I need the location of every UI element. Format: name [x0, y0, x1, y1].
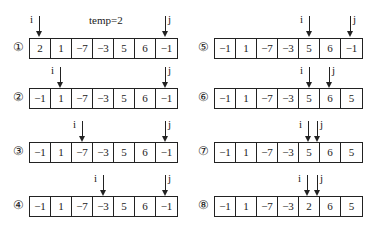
step-1: temp=2 ① i j 2 1 −7 −3 5 6 −1: [2, 8, 187, 62]
array-cell: 2: [299, 197, 320, 216]
array-cell: 1: [51, 39, 72, 58]
array-cell: 1: [236, 39, 257, 58]
arrow-down-icon: [162, 31, 168, 37]
array-cell: −1: [156, 143, 177, 162]
pointer-i: i: [78, 121, 88, 143]
array-cell: −7: [72, 197, 93, 216]
array-cell: 1: [236, 197, 257, 216]
array-cell: 5: [299, 143, 320, 162]
array-cell: 5: [114, 143, 135, 162]
array-cell: 5: [341, 89, 362, 108]
array-cell: −1: [215, 89, 236, 108]
array: −1 1 −7 −3 2 6 5: [214, 196, 363, 217]
array-cell: 6: [135, 89, 156, 108]
array-cell: 1: [236, 89, 257, 108]
array-cell: −1: [30, 197, 51, 216]
array-cell: 2: [30, 39, 51, 58]
pointer-i: i: [35, 16, 45, 38]
array-cell: 6: [135, 39, 156, 58]
array-cell: 5: [114, 39, 135, 58]
array-cell: 5: [299, 89, 320, 108]
array-cell: 1: [51, 89, 72, 108]
array-cell: −3: [93, 89, 114, 108]
array: −1 1 −7 −3 5 6 −1: [29, 142, 178, 163]
array-cell: −3: [278, 143, 299, 162]
array-cell: −1: [30, 143, 51, 162]
step-7: ⑦ i j −1 1 −7 −3 5 6 5: [187, 112, 372, 166]
temp-label: temp=2: [89, 14, 123, 26]
array-cell: 6: [135, 197, 156, 216]
arrow-down-icon: [347, 31, 353, 37]
array: −1 1 −7 −3 5 6 −1: [214, 38, 363, 59]
step-4: ④ i j −1 1 −7 −3 5 6 −1: [2, 166, 187, 220]
array-cell: 5: [341, 143, 362, 162]
array-cell: −7: [257, 39, 278, 58]
array-cell: −3: [93, 39, 114, 58]
step-number: ②: [2, 90, 24, 105]
step-number: ⑦: [187, 144, 209, 159]
array-cell: 5: [341, 197, 362, 216]
array-cell: −1: [215, 39, 236, 58]
array-cell: −1: [215, 197, 236, 216]
array-cell: 5: [114, 197, 135, 216]
array-cell: 6: [320, 39, 341, 58]
array-cell: 5: [114, 89, 135, 108]
array-cell: −7: [72, 143, 93, 162]
pointer-i: i: [303, 175, 313, 197]
pointer-j: j: [161, 121, 171, 143]
step-number: ⑤: [187, 40, 209, 55]
pointer-i: i: [99, 175, 109, 197]
step-6: ⑥ i j −1 1 −7 −3 5 6 5: [187, 58, 372, 112]
array-cell: −1: [30, 89, 51, 108]
array-cell: −3: [93, 197, 114, 216]
array-cell: −3: [93, 143, 114, 162]
array-cell: −1: [156, 197, 177, 216]
array-cell: −1: [341, 39, 362, 58]
array-cell: 1: [236, 143, 257, 162]
step-number: ①: [2, 40, 24, 55]
array-cell: 6: [320, 143, 341, 162]
pointer-j: j: [161, 175, 171, 197]
array-cell: −1: [156, 89, 177, 108]
array-cell: 5: [299, 39, 320, 58]
pointer-j: j: [325, 67, 335, 89]
array-cell: −7: [257, 197, 278, 216]
step-5: ⑤ i j −1 1 −7 −3 5 6 −1: [187, 8, 372, 62]
array-cell: 1: [51, 143, 72, 162]
array-cell: −3: [278, 39, 299, 58]
pointer-j: j: [161, 16, 171, 38]
array: −1 1 −7 −3 5 6 5: [214, 142, 363, 163]
array: −1 1 −7 −3 5 6 −1: [29, 196, 178, 217]
array-cell: −3: [278, 197, 299, 216]
array-cell: −7: [257, 143, 278, 162]
arrow-down-icon: [306, 31, 312, 37]
step-2: ② i j −1 1 −7 −3 5 6 −1: [2, 58, 187, 112]
arrow-down-icon: [36, 31, 42, 37]
pointer-i: i: [305, 67, 315, 89]
array-cell: 6: [320, 89, 341, 108]
array-cell: 6: [320, 197, 341, 216]
array: −1 1 −7 −3 5 6 5: [214, 88, 363, 109]
pointer-j: j: [161, 67, 171, 89]
pointer-j: j: [346, 16, 356, 38]
array: −1 1 −7 −3 5 6 −1: [29, 88, 178, 109]
array: 2 1 −7 −3 5 6 −1: [29, 38, 178, 59]
array-cell: −1: [156, 39, 177, 58]
array-cell: −1: [215, 143, 236, 162]
step-8: ⑧ i j −1 1 −7 −3 2 6 5: [187, 166, 372, 220]
pointer-i: i: [305, 16, 315, 38]
array-cell: 6: [135, 143, 156, 162]
step-number: ⑧: [187, 198, 209, 213]
step-number: ④: [2, 198, 24, 213]
array-cell: −7: [257, 89, 278, 108]
array-cell: −7: [72, 39, 93, 58]
array-cell: −7: [72, 89, 93, 108]
step-number: ③: [2, 144, 24, 159]
array-cell: −3: [278, 89, 299, 108]
step-3: ③ i j −1 1 −7 −3 5 6 −1: [2, 112, 187, 166]
pointer-j: j: [313, 121, 323, 143]
pointer-j: j: [313, 175, 323, 197]
step-number: ⑥: [187, 90, 209, 105]
array-cell: 1: [51, 197, 72, 216]
pointer-i: i: [56, 67, 66, 89]
